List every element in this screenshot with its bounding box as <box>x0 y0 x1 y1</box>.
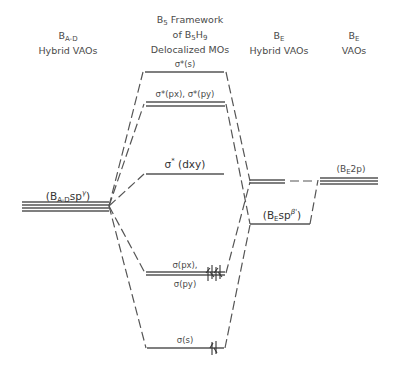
header-b5-framework-mos: B5 Framework of B5H9 Delocalized MOs <box>142 14 238 56</box>
label-sigma-s: σ(s) <box>165 334 205 346</box>
header-be-vaos: BE VAOs <box>334 30 374 57</box>
label-sigma-px: σ(px), <box>160 259 210 271</box>
header-bad-hybrid-vaos: BA-D Hybrid VAOs <box>30 30 106 57</box>
header-be-hybrid-vaos: BE Hybrid VAOs <box>246 30 312 57</box>
label-sigma-py: σ(py) <box>160 278 210 290</box>
label-sigma-star-s: σ*(s) <box>160 58 210 70</box>
label-sigma-star-dxy: σ* (dxy) <box>150 155 220 170</box>
label-be-2p: (BE2p) <box>328 163 374 178</box>
label-be-sp-beta: (BEspβ') <box>254 206 310 225</box>
label-sigma-star-pxpy: σ*(px), σ*(py) <box>145 88 225 100</box>
label-bad-sp-gamma: (BA-Dspγ) <box>36 187 100 206</box>
